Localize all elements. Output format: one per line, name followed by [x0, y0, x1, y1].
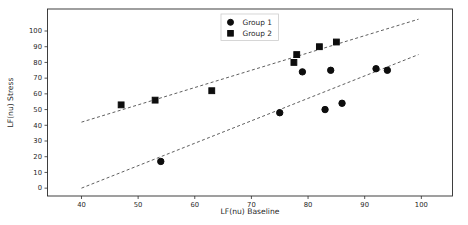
- legend-label-group1: Group 1: [243, 18, 273, 27]
- x-tick-label: 40: [77, 201, 86, 209]
- data-point-group1: [328, 67, 334, 73]
- y-tick-label: 10: [33, 169, 42, 177]
- data-point-group1: [277, 110, 283, 116]
- y-tick-label: 70: [33, 74, 42, 82]
- legend-label-group2: Group 2: [243, 29, 273, 38]
- legend-circle-marker-icon: [228, 19, 234, 25]
- data-point-group1: [384, 67, 390, 73]
- x-tick-label: 90: [360, 201, 369, 209]
- trendline-group1: [81, 55, 418, 189]
- data-point-group1: [339, 100, 345, 106]
- data-point-group2: [152, 97, 158, 103]
- y-tick-label: 80: [33, 59, 42, 67]
- y-tick-label: 0: [38, 184, 42, 192]
- legend: Group 1 Group 2: [221, 14, 279, 41]
- y-tick-label: 90: [33, 43, 42, 51]
- data-point-group2: [209, 88, 215, 94]
- x-axis-label: LF(nu) Baseline: [221, 207, 280, 216]
- data-point-group2: [291, 60, 297, 66]
- data-point-group2: [118, 102, 124, 108]
- x-tick-label: 100: [415, 201, 428, 209]
- y-tick-label: 100: [29, 27, 42, 35]
- data-point-group1: [373, 66, 379, 72]
- data-point-group1: [299, 69, 305, 75]
- scatter-plot-canvas: 4050607080901000102030405060708090100 LF…: [0, 0, 468, 225]
- y-tick-label: 40: [33, 122, 42, 130]
- y-tick-label: 60: [33, 90, 42, 98]
- data-point-group2: [294, 52, 300, 58]
- data-point-group1: [322, 106, 328, 112]
- scatter-plot-figure: 4050607080901000102030405060708090100 LF…: [0, 0, 468, 225]
- data-point-group1: [158, 158, 164, 164]
- axis-ticks-layer: 4050607080901000102030405060708090100: [29, 27, 428, 208]
- y-tick-label: 20: [33, 153, 42, 161]
- data-points-layer: [118, 39, 390, 165]
- x-tick-label: 80: [304, 201, 313, 209]
- legend-square-marker-icon: [228, 31, 234, 37]
- y-tick-label: 50: [33, 106, 42, 114]
- data-point-group2: [333, 39, 339, 45]
- y-axis-label: LF(nu) Stress: [6, 78, 15, 128]
- y-tick-label: 30: [33, 137, 42, 145]
- trendlines-layer: [81, 19, 418, 188]
- x-tick-label: 60: [190, 201, 199, 209]
- x-tick-label: 50: [134, 201, 143, 209]
- data-point-group2: [316, 44, 322, 50]
